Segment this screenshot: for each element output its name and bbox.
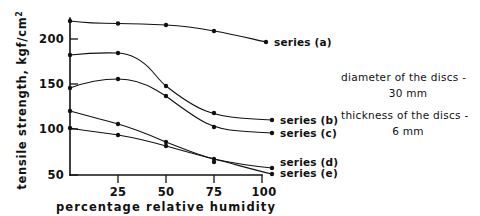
y-tick-label-100: 100 [39, 122, 64, 136]
series-e-point-100 [270, 172, 274, 176]
series-b-point-0 [68, 53, 72, 57]
series-a-point-75 [212, 29, 216, 33]
series-e-curve [70, 128, 272, 174]
series-c-point-75 [212, 125, 216, 129]
series-c-point-100 [270, 131, 274, 135]
series-e-label: series (e) [280, 167, 338, 179]
series-a-point-50 [164, 23, 168, 27]
y-axis-title-text: tensile strength, kgf/cm [15, 17, 29, 190]
series-b-point-100 [270, 118, 274, 122]
thickness-label: thickness of the discs - [341, 109, 469, 121]
y-tick-label-50: 50 [47, 168, 64, 182]
x-tick-label-50: 50 [158, 185, 175, 199]
series-c-group: series (c) [68, 77, 337, 139]
series-e-point-25 [116, 133, 120, 137]
series-a-point-0 [68, 19, 72, 23]
series-b-label: series (b) [280, 114, 338, 126]
series-d-curve [70, 111, 272, 168]
x-axis-ticks [118, 175, 262, 183]
y-axis-ticks [70, 39, 78, 175]
x-tick-label-75: 75 [206, 185, 223, 199]
x-axis-title: percentage relative humidity [56, 200, 276, 214]
series-d-point-25 [116, 122, 120, 126]
series-c-curve [70, 79, 272, 133]
series-a-group: series (a) [68, 19, 332, 48]
series-c-point-0 [68, 86, 72, 90]
series-a-label: series (a) [274, 36, 332, 48]
series-b-point-75 [212, 111, 216, 115]
series-b-point-25 [116, 51, 120, 55]
series-c-point-25 [116, 77, 120, 81]
figure-container: 200 150 100 50 25 50 75 100 percentage r… [0, 0, 480, 216]
chart-plot: 200 150 100 50 25 50 75 100 percentage r… [0, 0, 480, 216]
series-c-label: series (c) [280, 127, 337, 139]
series-d-point-100 [270, 166, 274, 170]
series-c-point-50 [164, 94, 168, 98]
series-d-point-50 [164, 140, 168, 144]
y-axis-title-group: tensile strength, kgf/cm2 [15, 10, 29, 189]
diameter-label: diameter of the discs - [341, 71, 466, 83]
diameter-value: 30 mm [389, 87, 428, 99]
series-e-point-0 [68, 126, 72, 130]
annotation-diameter: diameter of the discs - 30 mm [341, 71, 466, 99]
series-b-point-50 [164, 84, 168, 88]
y-tick-label-200: 200 [39, 32, 64, 46]
series-a-point-25 [116, 21, 120, 25]
series-d-point-0 [68, 109, 72, 113]
series-e-point-50 [164, 144, 168, 148]
y-axis-title: tensile strength, kgf/cm2 [15, 10, 29, 189]
thickness-value: 6 mm [392, 125, 424, 137]
annotation-thickness: thickness of the discs - 6 mm [341, 109, 469, 137]
series-b-group: series (b) [68, 51, 338, 126]
y-tick-label-150: 150 [39, 77, 64, 91]
y-axis-title-superscript: 2 [15, 10, 24, 16]
series-b-curve [70, 53, 272, 120]
x-tick-label-100: 100 [252, 185, 277, 199]
series-a-point-100 [264, 40, 268, 44]
x-tick-label-25: 25 [110, 185, 127, 199]
series-e-point-75 [212, 160, 216, 164]
